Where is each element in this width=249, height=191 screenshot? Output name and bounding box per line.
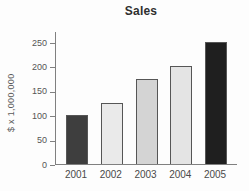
- y-tick-mark: [50, 165, 55, 166]
- bar-2002: [101, 103, 123, 164]
- bar-2001: [66, 115, 88, 164]
- y-axis-title: $ x 1,000,000: [6, 36, 16, 169]
- bar-2005: [205, 42, 227, 164]
- x-tick-label-2003: 2003: [128, 169, 164, 180]
- x-tick-label-2004: 2004: [162, 169, 198, 180]
- y-tick-label-200: 200: [0, 62, 47, 72]
- y-tick-label-0: 0: [0, 160, 47, 170]
- y-tick-label-100: 100: [0, 111, 47, 121]
- x-tick-label-2002: 2002: [93, 169, 129, 180]
- plot-area: [55, 32, 237, 165]
- chart-title: Sales: [50, 4, 232, 18]
- y-tick-label-150: 150: [0, 86, 47, 96]
- bar-2003: [136, 79, 158, 164]
- bar-2004: [170, 66, 192, 164]
- y-tick-label-250: 250: [0, 38, 47, 48]
- y-tick-label-50: 50: [0, 135, 47, 145]
- x-tick-label-2001: 2001: [58, 169, 94, 180]
- sales-bar-chart: Sales $ x 1,000,000 050100150200250 2001…: [0, 0, 249, 191]
- x-tick-label-2005: 2005: [197, 169, 233, 180]
